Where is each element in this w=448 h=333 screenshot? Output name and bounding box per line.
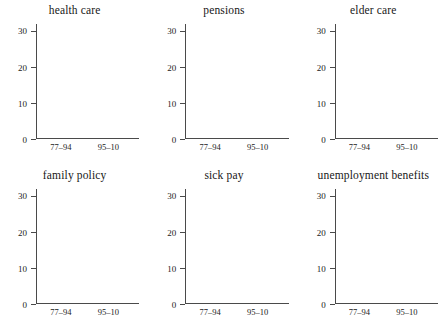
x-axis-tick-label: 95–10 xyxy=(98,142,119,152)
y-axis-tick-label: 10 xyxy=(317,99,326,109)
panel-elder-care: elder care 0102030 77–9495–10 xyxy=(299,0,448,165)
x-axis-tick-label: 95–10 xyxy=(247,307,268,317)
y-axis-tick-label: 20 xyxy=(167,228,176,238)
bar-slot[interactable] xyxy=(391,189,422,303)
y-axis-tick-label: 20 xyxy=(18,63,27,73)
y-axis-tick-label: 10 xyxy=(167,99,176,109)
y-axis-tick-label: 10 xyxy=(18,99,27,109)
bar-slot[interactable] xyxy=(45,189,76,303)
x-axis-line xyxy=(335,303,438,304)
bar-slot[interactable] xyxy=(344,189,375,303)
panel-pensions: pensions 0102030 77–9495–10 xyxy=(149,0,298,165)
bar-group: 77–9495–10 xyxy=(36,189,139,303)
x-axis-tick-label: 77–94 xyxy=(200,142,221,152)
y-axis-tick-label: 0 xyxy=(321,135,326,145)
x-axis-tick-label: 95–10 xyxy=(396,142,417,152)
plot-area: 0102030 77–9495–10 xyxy=(36,189,139,304)
bar-slot[interactable] xyxy=(391,24,422,138)
panel-sick-pay: sick pay 0102030 77–9495–10 xyxy=(149,165,298,330)
y-axis-tick-label: 10 xyxy=(167,264,176,274)
y-axis-tick-label: 20 xyxy=(167,63,176,73)
y-axis-tick: 0 xyxy=(31,304,36,305)
bar-group: 77–9495–10 xyxy=(335,189,438,303)
y-axis-tick-label: 30 xyxy=(167,26,176,36)
panel-title: sick pay xyxy=(149,169,298,181)
panel-unemployment-benefits: unemployment benefits 0102030 77–9495–10 xyxy=(299,165,448,330)
y-axis-tick-label: 0 xyxy=(172,300,177,310)
y-axis-tick: 0 xyxy=(180,139,185,140)
bar-group: 77–9495–10 xyxy=(185,189,288,303)
plot-area: 0102030 77–9495–10 xyxy=(36,24,139,139)
panel-grid: health care 0102030 77–9495–10 pensions … xyxy=(0,0,448,330)
plot-area: 0102030 77–9495–10 xyxy=(185,189,288,304)
y-axis-tick: 0 xyxy=(330,304,335,305)
bar-slot[interactable] xyxy=(45,24,76,138)
y-axis-tick-label: 30 xyxy=(317,191,326,201)
x-axis-tick-label: 77–94 xyxy=(50,307,71,317)
y-axis-tick-label: 20 xyxy=(317,228,326,238)
plot-area: 0102030 77–9495–10 xyxy=(185,24,288,139)
x-axis-line xyxy=(36,303,139,304)
panel-title: pensions xyxy=(149,4,298,16)
figure-root: health care 0102030 77–9495–10 pensions … xyxy=(0,0,448,333)
bar-slot[interactable] xyxy=(344,24,375,138)
x-axis-tick-label: 77–94 xyxy=(349,142,370,152)
y-axis-tick: 0 xyxy=(180,304,185,305)
x-axis-tick-label: 77–94 xyxy=(200,307,221,317)
y-axis-tick-label: 30 xyxy=(18,191,27,201)
y-axis-tick: 0 xyxy=(31,139,36,140)
panel-title: unemployment benefits xyxy=(299,169,448,181)
panel-family-policy: family policy 0102030 77–9495–10 xyxy=(0,165,149,330)
plot-area: 0102030 77–9495–10 xyxy=(335,189,438,304)
y-axis-tick-label: 0 xyxy=(172,135,177,145)
y-axis-tick-label: 0 xyxy=(23,300,28,310)
y-axis-tick-label: 0 xyxy=(321,300,326,310)
x-axis-line xyxy=(185,138,288,139)
bar-group: 77–9495–10 xyxy=(185,24,288,138)
x-axis-tick-label: 95–10 xyxy=(98,307,119,317)
bar-slot[interactable] xyxy=(93,189,124,303)
bar-group: 77–9495–10 xyxy=(335,24,438,138)
y-axis-tick-label: 10 xyxy=(18,264,27,274)
bar-slot[interactable] xyxy=(242,24,273,138)
bar-slot[interactable] xyxy=(195,189,226,303)
bar-slot[interactable] xyxy=(242,189,273,303)
x-axis-tick-label: 77–94 xyxy=(50,142,71,152)
y-axis-tick-label: 30 xyxy=(167,191,176,201)
y-axis-tick-label: 20 xyxy=(317,63,326,73)
x-axis-tick-label: 95–10 xyxy=(396,307,417,317)
x-axis-line xyxy=(36,138,139,139)
panel-title: elder care xyxy=(299,4,448,16)
x-axis-tick-label: 95–10 xyxy=(247,142,268,152)
y-axis-tick-label: 0 xyxy=(23,135,28,145)
plot-area: 0102030 77–9495–10 xyxy=(335,24,438,139)
x-axis-line xyxy=(335,138,438,139)
y-axis-tick-label: 20 xyxy=(18,228,27,238)
y-axis-tick-label: 30 xyxy=(18,26,27,36)
x-axis-tick-label: 77–94 xyxy=(349,307,370,317)
x-axis-line xyxy=(185,303,288,304)
bar-slot[interactable] xyxy=(195,24,226,138)
panel-health-care: health care 0102030 77–9495–10 xyxy=(0,0,149,165)
y-axis-tick-label: 30 xyxy=(317,26,326,36)
bar-group: 77–9495–10 xyxy=(36,24,139,138)
y-axis-tick-label: 10 xyxy=(317,264,326,274)
y-axis-tick: 0 xyxy=(330,139,335,140)
panel-title: health care xyxy=(0,4,149,16)
bar-slot[interactable] xyxy=(93,24,124,138)
panel-title: family policy xyxy=(0,169,149,181)
